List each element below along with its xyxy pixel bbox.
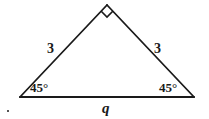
- geometry-figure: 3 3 45° 45° q: [0, 0, 209, 119]
- side-length-label-left: 3: [47, 42, 54, 56]
- angle-label-bottom-right: 45°: [159, 81, 177, 94]
- side-length-label-right: 3: [154, 42, 161, 56]
- angle-label-bottom-left: 45°: [30, 81, 48, 94]
- stray-dot-artifact: [7, 110, 9, 112]
- base-length-label: q: [102, 101, 110, 116]
